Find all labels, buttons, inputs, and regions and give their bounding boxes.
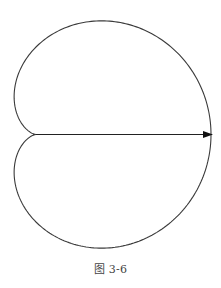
figure-caption: 图 3-6 [0, 260, 221, 276]
cardioid-figure [0, 0, 221, 288]
